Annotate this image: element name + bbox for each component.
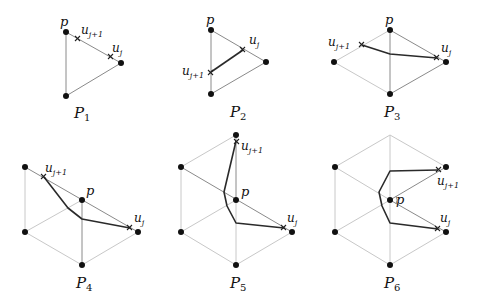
- cross-marker-uj1: [75, 36, 80, 41]
- vertex: [387, 262, 393, 268]
- vertex: [118, 60, 124, 66]
- panel-caption-p2: P2: [229, 103, 246, 122]
- vertex-p: [63, 29, 69, 35]
- label-uj: uj: [287, 211, 298, 227]
- edge: [390, 135, 446, 167]
- panel-p2: p uj uj+1 P2: [182, 12, 269, 122]
- edge: [82, 232, 138, 265]
- vertex: [263, 59, 269, 65]
- vertex: [331, 59, 337, 65]
- edge: [181, 232, 236, 265]
- label-p: p: [206, 12, 215, 27]
- panel-p1: p uj+1 uj P1: [60, 14, 124, 123]
- label-uj1: uj+1: [81, 23, 103, 39]
- vertex: [135, 229, 141, 235]
- vertex-p: [387, 27, 393, 33]
- label-uj: uj: [440, 211, 451, 227]
- panel-caption-p6: P6: [383, 274, 400, 293]
- label-p: p: [241, 184, 250, 199]
- label-p: p: [86, 183, 95, 198]
- label-uj1: uj+1: [241, 139, 263, 155]
- panel-p3: p uj+1 uj P3: [328, 12, 452, 122]
- label-uj: uj: [112, 41, 123, 57]
- edge: [25, 200, 82, 232]
- label-p: p: [396, 192, 405, 207]
- edge: [181, 135, 236, 167]
- vertex: [443, 164, 449, 170]
- vertex: [289, 229, 295, 235]
- panel-caption-p4: P4: [75, 274, 92, 293]
- chord-path: [211, 50, 243, 72]
- vertex: [443, 229, 449, 235]
- vertex: [178, 164, 184, 170]
- edge: [390, 232, 446, 265]
- label-uj: uj: [134, 211, 145, 227]
- label-uj: uj: [249, 33, 260, 49]
- vertex: [22, 164, 28, 170]
- vertex: [233, 262, 239, 268]
- label-uj1: uj+1: [45, 161, 67, 177]
- vertex-p: [208, 27, 214, 33]
- vertex: [178, 229, 184, 235]
- vertex-p: [233, 197, 239, 203]
- edge: [390, 30, 446, 62]
- label-uj1: uj+1: [437, 174, 459, 190]
- vertex: [332, 164, 338, 170]
- vertex: [387, 91, 393, 97]
- edge: [181, 200, 236, 232]
- edge: [236, 232, 292, 265]
- vertex: [332, 229, 338, 235]
- vertex-p: [387, 197, 393, 203]
- figure-canvas: p uj+1 uj P1 p uj uj+1 P2: [0, 0, 481, 304]
- vertex: [63, 93, 69, 99]
- panel-p4: p uj+1 uj P4: [22, 161, 145, 293]
- edge: [25, 232, 82, 265]
- edge: [66, 63, 121, 96]
- label-uj1: uj+1: [182, 64, 204, 80]
- edge: [390, 62, 446, 94]
- vertex-p: [79, 197, 85, 203]
- edge: [335, 135, 390, 167]
- label-p: p: [385, 12, 394, 27]
- panel-p6: p uj+1 uj P6: [332, 135, 459, 293]
- panel-caption-p3: P3: [383, 103, 400, 122]
- edge: [335, 232, 390, 265]
- vertex: [208, 91, 214, 97]
- label-uj: uj: [441, 41, 452, 57]
- vertex: [233, 132, 239, 138]
- panel-caption-p5: P5: [229, 274, 246, 293]
- vertex: [79, 262, 85, 268]
- label-uj1: uj+1: [328, 35, 350, 51]
- label-p: p: [60, 14, 69, 29]
- edge: [335, 167, 390, 200]
- vertex: [22, 229, 28, 235]
- panel-p5: p uj+1 uj P5: [178, 132, 298, 293]
- panel-caption-p1: P1: [73, 104, 90, 123]
- edge: [334, 62, 390, 94]
- vertex: [443, 59, 449, 65]
- chord-path: [362, 45, 437, 58]
